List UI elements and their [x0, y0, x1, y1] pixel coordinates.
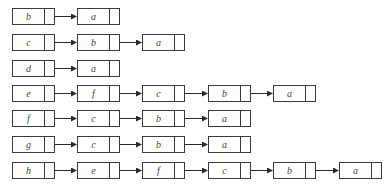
arrows-layer	[0, 0, 392, 190]
